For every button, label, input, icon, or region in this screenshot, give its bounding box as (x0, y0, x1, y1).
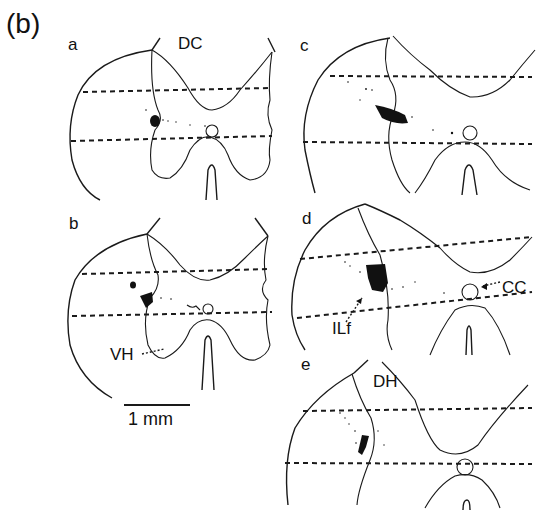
labeled-cells-e (339, 412, 384, 455)
figure-panel-label: (b) (6, 10, 40, 38)
section-e (285, 360, 532, 510)
section-a (70, 38, 275, 200)
labeled-cells-b (130, 282, 200, 311)
spinal-cord-figure: (b) a DC b VH c d ILf CC e DH 1 mm (0, 0, 543, 524)
label-dorsal-horn: DH (373, 373, 398, 390)
label-dorsal-column: DC (178, 35, 203, 52)
section-label-e: e (301, 356, 310, 373)
label-central-canal: CC (502, 279, 527, 296)
section-label-a: a (68, 36, 77, 53)
scale-bar-label: 1 mm (128, 410, 173, 428)
label-ventral-horn: VH (110, 346, 134, 363)
section-label-c: c (300, 37, 309, 54)
labeled-cells-c (347, 81, 453, 134)
section-drawings (0, 0, 543, 524)
section-label-d: d (302, 210, 311, 227)
labeled-cells-d (344, 261, 445, 294)
section-label-b: b (69, 215, 78, 232)
label-intermediolateral-funiculus: ILf (332, 320, 351, 337)
section-c (303, 36, 535, 195)
labeled-cells-a (145, 109, 206, 127)
section-b (68, 218, 272, 398)
section-d (292, 204, 532, 355)
